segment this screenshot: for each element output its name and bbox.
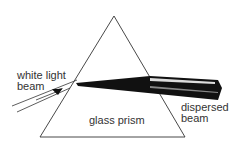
white-light-label-line2: beam: [17, 81, 45, 92]
dispersed-beam: [76, 76, 222, 100]
dispersed-label-line2: beam: [181, 113, 209, 124]
glass-prism-label: glass prism: [89, 115, 145, 126]
prism-diagram: white light beam glass prism dispersed b…: [0, 0, 236, 151]
